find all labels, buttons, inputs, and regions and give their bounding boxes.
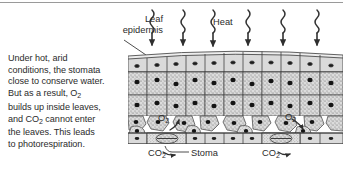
co2-left-subscript: 2: [162, 152, 166, 159]
palisade-mesophyll: [128, 72, 343, 116]
co2-right-symbol: CO: [262, 148, 276, 158]
heat-arrow-5: [281, 10, 285, 45]
heat-arrow-4: [246, 10, 250, 45]
heat-arrow-6: [315, 10, 319, 45]
leaf-epidermis-label-line2: epidermis: [123, 25, 163, 35]
co2-label-left: CO2: [148, 148, 166, 161]
o2-label-right: O2: [285, 112, 296, 125]
o2-right-subscript: 2: [292, 116, 296, 123]
stoma-leader-hook: [165, 146, 172, 152]
leaf-epidermis-label: Leaf epidermis: [103, 14, 163, 36]
stoma-left: [147, 133, 186, 144]
leaf-epidermis-leader-line: [124, 40, 146, 55]
heat-arrow-3: [211, 10, 215, 46]
stoma-right: [262, 133, 300, 144]
lower-epidermis-row: [128, 133, 343, 144]
o2-left-subscript: 2: [165, 117, 169, 124]
o2-label-left: O2: [158, 113, 169, 126]
heat-arrows-group: [150, 10, 319, 46]
leaf-body: [128, 51, 343, 144]
co2-left-symbol: CO: [148, 148, 162, 158]
leaf-cross-section-figure: Under hot, arid conditions, the stomata …: [0, 0, 343, 171]
co2-label-right: CO2: [262, 148, 280, 161]
stoma-label: Stoma: [191, 148, 218, 159]
palisade-tier-1: [128, 72, 343, 95]
co2-right-subscript: 2: [276, 152, 280, 159]
heat-label: Heat: [213, 17, 233, 28]
heat-arrow-2: [181, 10, 185, 45]
leaf-diagram-artwork: [0, 0, 343, 171]
leaf-epidermis-label-line1: Leaf: [145, 14, 163, 24]
